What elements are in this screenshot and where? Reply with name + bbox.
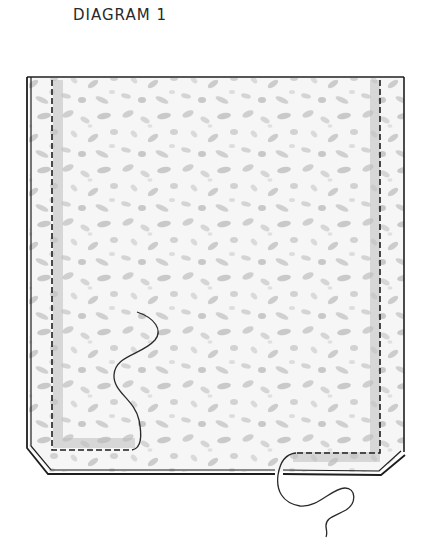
fabric-panel [29,78,404,472]
fabric-diagram [0,0,427,543]
